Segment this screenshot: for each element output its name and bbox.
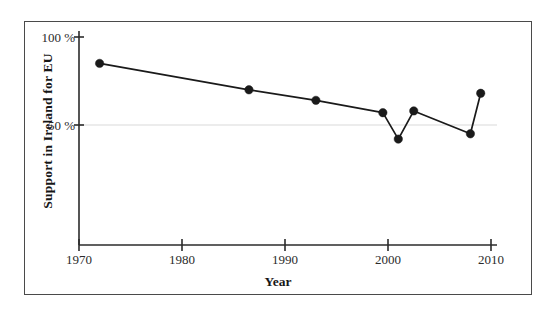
plot-area	[0, 0, 556, 313]
data-point-5	[410, 107, 418, 115]
data-polyline	[100, 63, 481, 139]
data-point-6	[466, 130, 474, 138]
axis-line-group	[79, 31, 497, 245]
data-point-2	[312, 96, 320, 104]
data-marker-group	[95, 59, 485, 143]
data-point-0	[95, 59, 103, 67]
data-point-1	[245, 86, 253, 94]
chart-figure: Support in Ireland for EU Year 100 % 50 …	[0, 0, 556, 313]
data-point-3	[379, 108, 387, 116]
data-line-group	[100, 63, 481, 139]
data-point-7	[477, 89, 485, 97]
data-point-4	[394, 135, 402, 143]
